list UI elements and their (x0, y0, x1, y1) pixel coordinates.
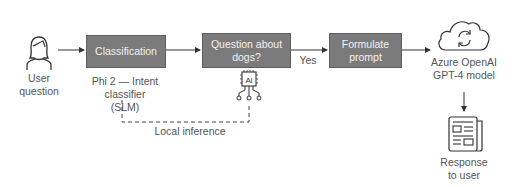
person-icon (24, 34, 54, 70)
response-label-line1: Response (436, 156, 492, 169)
response-label: Response to user (436, 156, 492, 182)
azure-label-line2: GPT-4 model (424, 69, 504, 82)
user-label-line2: question (16, 85, 62, 98)
yes-edge-label: Yes (296, 54, 320, 67)
classification-caption: Phi 2 — Intent classifier (SLM) (70, 75, 180, 114)
newspaper-icon (447, 115, 485, 153)
classification-caption-line2: (SLM) (70, 101, 180, 114)
formulate-prompt-box: Formulate prompt (329, 33, 402, 68)
azure-label-line1: Azure OpenAI (424, 56, 504, 69)
classification-box: Classification (86, 35, 166, 68)
formulate-label-line1: Formulate (342, 38, 389, 51)
question-label-line1: Question about (211, 38, 282, 51)
svg-text:Ai: Ai (245, 76, 252, 85)
azure-label: Azure OpenAI GPT-4 model (424, 56, 504, 82)
cloud-sync-icon (436, 16, 492, 54)
question-label-line2: dogs? (232, 51, 261, 64)
user-label-line1: User (16, 72, 62, 85)
ai-chip-icon: Ai (234, 69, 264, 103)
classification-label: Classification (95, 45, 157, 58)
user-question-label: User question (16, 72, 62, 98)
classification-caption-line1: Phi 2 — Intent classifier (70, 75, 180, 101)
question-dogs-box: Question about dogs? (202, 33, 291, 68)
formulate-label-line2: prompt (349, 51, 382, 64)
response-label-line2: to user (436, 169, 492, 182)
local-inference-label: Local inference (150, 125, 230, 138)
